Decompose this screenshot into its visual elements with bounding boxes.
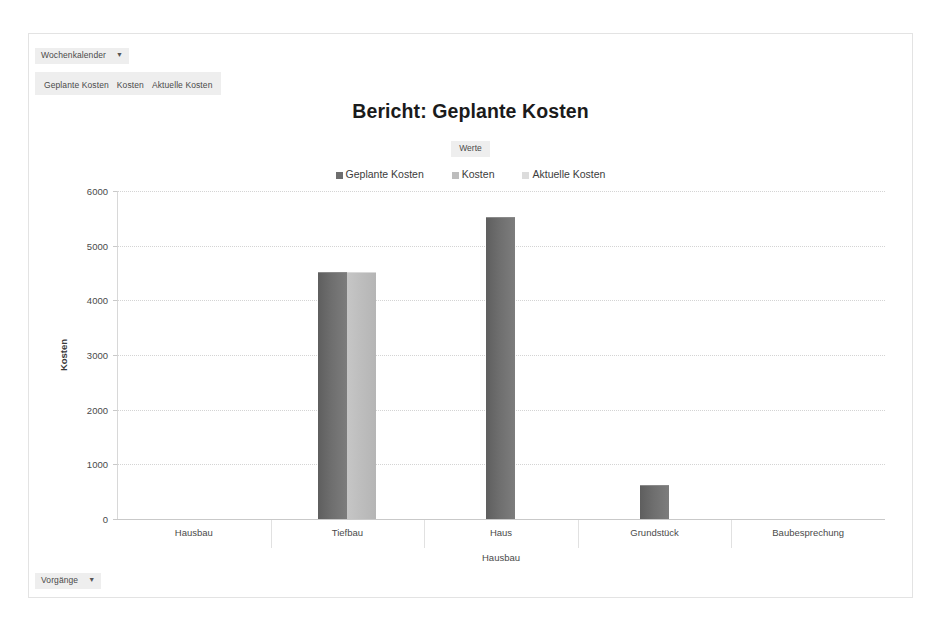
report-frame: Wochenkalender▼ Geplante KostenKostenAkt… [28, 33, 913, 598]
legend-entry[interactable]: Aktuelle Kosten [522, 168, 605, 180]
bar-group [731, 191, 885, 519]
x-category-label: Hausbau [117, 527, 271, 538]
bar[interactable] [640, 485, 669, 519]
bottom-filter-bar: Vorgänge▼ [35, 569, 101, 589]
vorgaenge-filter-dropdown[interactable]: Vorgänge▼ [35, 573, 101, 589]
bar-group-bars [271, 191, 425, 519]
vorgaenge-filter-label: Vorgänge [41, 575, 78, 585]
x-axis-title: Hausbau [117, 552, 885, 563]
x-category-label: Tiefbau [271, 527, 425, 538]
legend-swatch-icon [522, 172, 529, 179]
legend-swatch-icon [336, 172, 343, 179]
bar-group [117, 191, 271, 519]
y-tick-label: 2000 [87, 404, 108, 415]
y-tick-label: 1000 [87, 459, 108, 470]
bar-group [424, 191, 578, 519]
legend-entry[interactable]: Geplante Kosten [336, 168, 424, 180]
legend-items: Geplante KostenKostenAktuelle Kosten [29, 164, 912, 182]
chevron-down-icon: ▼ [88, 574, 95, 585]
legend-label: Geplante Kosten [346, 168, 424, 180]
bar-group-bars [117, 191, 271, 519]
legend-label: Kosten [462, 168, 495, 180]
value-field-chip[interactable]: Kosten [113, 80, 148, 91]
bar[interactable] [318, 272, 347, 519]
legend-heading: Werte [451, 141, 490, 157]
bar[interactable] [486, 217, 515, 519]
value-fields-chip-row: Geplante KostenKostenAktuelle Kosten [35, 72, 221, 95]
value-field-chip[interactable]: Aktuelle Kosten [148, 80, 217, 91]
bar-group [578, 191, 732, 519]
chart-title: Bericht: Geplante Kosten [29, 100, 912, 123]
bar-group-bars [731, 191, 885, 519]
wochenkalender-filter-dropdown[interactable]: Wochenkalender▼ [35, 48, 129, 64]
bar-group-bars [578, 191, 732, 519]
value-field-chip[interactable]: Geplante Kosten [40, 80, 113, 91]
y-tick-label: 5000 [87, 240, 108, 251]
bar[interactable] [347, 272, 376, 519]
legend-swatch-icon [452, 172, 459, 179]
bar-group-bars [424, 191, 578, 519]
x-category-label: Haus [424, 527, 578, 538]
chevron-down-icon: ▼ [116, 49, 123, 60]
x-axis-label-band: HausbauTiefbauHausGrundstückBaubesprechu… [117, 520, 885, 548]
legend-label: Aktuelle Kosten [532, 168, 605, 180]
bar-group [271, 191, 425, 519]
legend-entry[interactable]: Kosten [452, 168, 495, 180]
plot-area: Kosten 0100020003000400050006000 [117, 191, 885, 519]
page-filter-bar: Wochenkalender▼ [35, 44, 129, 64]
chart-legend: Werte Geplante KostenKostenAktuelle Kost… [29, 137, 912, 182]
y-tick-label: 0 [103, 514, 108, 525]
y-axis-title: Kosten [58, 339, 69, 371]
wochenkalender-filter-label: Wochenkalender [41, 50, 106, 60]
x-category-label: Grundstück [578, 527, 732, 538]
y-tick-label: 6000 [87, 186, 108, 197]
x-category-label: Baubesprechung [731, 527, 885, 538]
y-tick-label: 4000 [87, 295, 108, 306]
y-tick-label: 3000 [87, 350, 108, 361]
